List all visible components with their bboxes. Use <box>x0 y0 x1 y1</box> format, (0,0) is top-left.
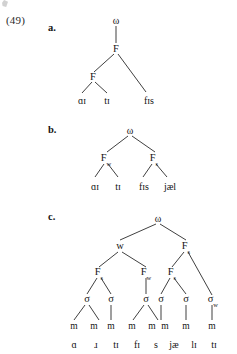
node-syllable-c-5-label: σ <box>183 293 189 304</box>
node-syllable-c-6-sub: w <box>213 300 218 307</box>
node-syllable-c-5: σ <box>183 294 189 307</box>
node-foot-c-1-sub: s <box>100 273 103 280</box>
node-level2-strong-c: Fs <box>182 241 190 254</box>
node-foot-c-2-label: F <box>141 266 147 277</box>
terminal-c-5: s <box>154 339 158 350</box>
node-level2-strong-sub: s <box>187 247 190 254</box>
terminal-c-6: jæ <box>169 339 178 350</box>
node-mora-c-6: m <box>161 321 168 331</box>
node-syllable-c-6: σw <box>208 294 218 307</box>
node-level2-weak-label: w <box>116 240 124 251</box>
node-mora-c-7: m <box>182 321 189 331</box>
node-omega-c: ω <box>155 214 162 224</box>
terminal-c-3: tɪ <box>113 339 119 350</box>
node-foot-c-3-label: F <box>168 266 174 277</box>
tree-c-edges <box>0 0 237 354</box>
node-syllable-c-4-label: σ <box>158 293 164 304</box>
node-foot-c-1-label: F <box>95 266 101 277</box>
terminal-c-2: ɹ <box>94 339 97 350</box>
node-syllable-c-2: σ <box>108 294 114 307</box>
node-mora-c-1: m <box>70 321 77 331</box>
terminal-c-1: ɑ <box>71 339 76 350</box>
node-syllable-c-4: σ <box>158 294 164 307</box>
terminal-c-4: fɪ <box>134 339 140 350</box>
page-canvas: (49) a. ω F F ɑɪ tɪ fɪs b. ω Fw Fs <box>0 0 237 354</box>
node-foot-c-3: Fs <box>168 267 176 280</box>
terminal-c-8: tɪ <box>211 339 217 350</box>
tree-c: ω w Fs Fs Fw Fs σ σ σ σ σ σw m m m m m m… <box>0 0 237 354</box>
node-level2-weak-c: w <box>116 241 124 254</box>
node-syllable-c-3: σ <box>143 294 149 307</box>
node-foot-c-1: Fs <box>95 267 103 280</box>
node-syllable-c-1-label: σ <box>84 293 90 304</box>
node-mora-c-8: m <box>208 321 215 331</box>
node-foot-c-2: Fw <box>141 267 152 280</box>
node-foot-c-2-sub: w <box>146 273 151 280</box>
node-syllable-c-1: σ <box>84 294 90 307</box>
node-mora-c-4: m <box>128 321 135 331</box>
node-syllable-c-3-label: σ <box>143 293 149 304</box>
node-mora-c-5: m <box>148 321 155 331</box>
node-foot-c-3-sub: s <box>173 273 176 280</box>
terminal-c-7: lɪ <box>191 339 197 350</box>
node-mora-c-3: m <box>107 321 114 331</box>
node-syllable-c-2-label: σ <box>108 293 114 304</box>
node-mora-c-2: m <box>90 321 97 331</box>
node-level2-strong-label: F <box>182 240 188 251</box>
